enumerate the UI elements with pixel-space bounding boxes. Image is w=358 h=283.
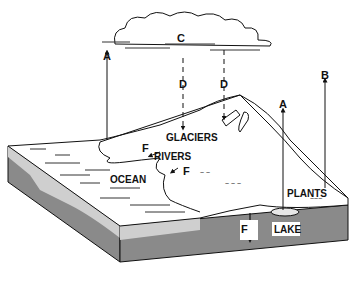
label-a-left: A	[103, 50, 111, 62]
lake	[271, 208, 299, 216]
label-b: B	[321, 69, 329, 81]
label-f-lake: F	[241, 223, 248, 235]
cloud-icon	[102, 12, 271, 50]
label-f-glacier: F	[142, 142, 149, 154]
label-c: C	[177, 32, 185, 44]
label-d-left: D	[179, 78, 187, 90]
svg-text:~ ~ ~: ~ ~ ~	[225, 180, 241, 187]
svg-text:~ ~: ~ ~	[200, 169, 210, 176]
label-rivers: RIVERS	[154, 151, 192, 162]
label-ocean: OCEAN	[110, 174, 146, 185]
label-glaciers: GLACIERS	[166, 132, 218, 143]
label-plants: PLANTS	[287, 188, 327, 199]
label-d-right: D	[220, 78, 228, 90]
label-a-right: A	[279, 98, 287, 110]
label-f-river: F	[183, 165, 190, 177]
label-lake: LAKE	[274, 224, 302, 235]
water-cycle-diagram: ~ ~ ~ ~~~ ~ ~ A A B C D D F F F GLACIERS…	[0, 0, 358, 283]
